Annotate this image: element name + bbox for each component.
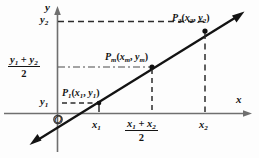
x-axis	[4, 110, 252, 117]
point-marker-p1	[97, 101, 102, 106]
point-marker-pm	[149, 64, 154, 69]
x-tick-x2: x2	[199, 120, 208, 131]
point-label-p1: P1(x1, y1)	[62, 88, 99, 98]
y-midpoint-fraction: y1 + y2 2	[8, 54, 40, 80]
point-marker-p2	[202, 28, 207, 33]
x-midpoint-fraction: x1 + x2 2	[125, 118, 158, 144]
y-tick-y1: y1	[40, 97, 48, 108]
y-axis-label: y	[45, 2, 50, 13]
x-axis-label: x	[236, 94, 242, 105]
point-label-pm: Pm(xm, ym)	[105, 52, 148, 62]
y-tick-y2: y2	[40, 15, 48, 26]
x-tick-x1: x1	[92, 120, 101, 131]
point-label-p2: P2(x2, y2)	[172, 13, 209, 23]
origin-label: O	[54, 113, 62, 125]
midpoint-diagram-figure: y x y2 y1 x1 x2 y1 + y2 2 x1 + x2 2 P1(x…	[0, 0, 259, 158]
